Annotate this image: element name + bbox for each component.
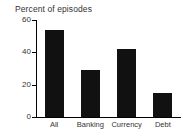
bar-debt xyxy=(153,93,172,117)
y-axis-label-40: 40 xyxy=(7,48,31,56)
plot-area: 60 40 20 0 All Banking Currency Debt xyxy=(0,0,183,140)
bar-currency xyxy=(117,49,136,117)
bar-banking xyxy=(81,70,100,117)
y-axis-line xyxy=(36,20,37,117)
x-axis-label-debt: Debt xyxy=(133,120,183,129)
y-axis-tick-0 xyxy=(32,117,36,118)
y-axis-tick-40 xyxy=(32,52,36,53)
bar-all xyxy=(45,30,64,117)
y-axis-tick-20 xyxy=(32,85,36,86)
y-axis-tick-60 xyxy=(32,20,36,21)
x-axis-line xyxy=(36,117,181,118)
bar-chart: Percent of episodes 60 40 20 0 All Banki… xyxy=(0,0,183,140)
y-axis-label-60: 60 xyxy=(7,16,31,24)
y-axis-label-20: 20 xyxy=(7,81,31,89)
